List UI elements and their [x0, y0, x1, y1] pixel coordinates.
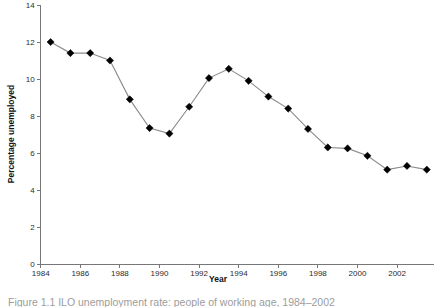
- data-point-marker: [384, 166, 391, 173]
- y-tick-label: 6: [30, 149, 35, 158]
- data-point-marker: [126, 96, 133, 103]
- y-axis-title: Percentage unemployed: [6, 85, 16, 183]
- x-tick-label: 1998: [309, 269, 327, 278]
- data-point-marker: [205, 74, 212, 81]
- x-tick-label: 1990: [151, 269, 169, 278]
- figure-caption-band: Figure 1.1 ILO unemployment rate: people…: [0, 285, 436, 307]
- figure-container: 02468101214 1984198619881990199219941996…: [0, 0, 436, 307]
- x-axis-title: Year: [209, 274, 228, 284]
- line-chart-svg: 02468101214 1984198619881990199219941996…: [0, 0, 436, 285]
- y-tick-label: 4: [30, 186, 35, 195]
- data-point-marker: [364, 152, 371, 159]
- y-axis: 02468101214: [26, 1, 41, 269]
- y-tick-label: 2: [30, 223, 35, 232]
- x-tick-label: 2000: [349, 269, 367, 278]
- x-axis: 1984198619881990199219941996199820002002: [32, 264, 434, 278]
- data-point-marker: [146, 124, 153, 131]
- y-tick-label: 8: [30, 112, 35, 121]
- data-point-marker: [47, 38, 54, 45]
- x-tick-label: 1992: [190, 269, 208, 278]
- y-tick-label: 12: [26, 38, 35, 47]
- data-point-marker: [344, 145, 351, 152]
- data-point-marker: [403, 162, 410, 169]
- chart-plot-area: 02468101214 1984198619881990199219941996…: [0, 0, 436, 285]
- y-tick-label: 10: [26, 75, 35, 84]
- data-point-marker: [423, 166, 430, 173]
- figure-caption-text: Figure 1.1 ILO unemployment rate: people…: [8, 296, 428, 307]
- y-tick-label: 0: [30, 260, 35, 269]
- data-point-marker: [225, 65, 232, 72]
- x-tick-label: 1994: [230, 269, 248, 278]
- data-point-marker: [67, 50, 74, 57]
- x-tick-label: 1984: [32, 269, 50, 278]
- data-series-unemployment: [47, 38, 430, 173]
- y-tick-label: 14: [26, 1, 35, 10]
- x-tick-label: 1996: [269, 269, 287, 278]
- x-tick-label: 1988: [111, 269, 129, 278]
- data-point-marker: [87, 50, 94, 57]
- x-tick-label: 2002: [388, 269, 406, 278]
- data-point-marker: [106, 57, 113, 64]
- x-tick-label: 1986: [71, 269, 89, 278]
